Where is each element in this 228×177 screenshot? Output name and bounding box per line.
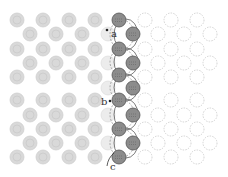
atom-solid [10,42,24,56]
atom-solid [88,70,102,84]
atom-dashed [190,70,204,84]
atom-dashed [203,108,217,122]
atom-solid [36,93,50,107]
atom-dashed [190,42,204,56]
atom-solid [36,70,50,84]
atom-dashed [138,122,152,136]
atom-dashed [164,42,178,56]
atom-dashed [164,93,178,107]
atom-dashed [203,136,217,150]
atom-solid [10,93,24,107]
atom-dashed [138,42,152,56]
marker-a-dot [106,29,109,32]
atom-chain [126,81,140,95]
atom-solid [49,108,63,122]
right-lattice-atoms-dashed [138,13,217,164]
atom-solid [88,13,102,27]
atom-dashed [164,13,178,27]
atom-dashed [203,27,217,41]
atom-dashed [151,136,165,150]
atom-dashed [190,122,204,136]
atom-solid [62,70,76,84]
atom-solid [88,93,102,107]
atom-solid [10,150,24,164]
atom-solid [62,93,76,107]
atom-dashed [164,122,178,136]
atom-dashed [138,93,152,107]
atom-solid [23,27,37,41]
atom-solid [49,56,63,70]
label-b: b [101,96,107,107]
atom-dashed [151,27,165,41]
atom-chain [126,136,140,150]
marker-b-dot [109,100,112,103]
atom-dashed [138,13,152,27]
lattice-diagram: a b c [0,0,228,177]
atom-chain [112,93,126,107]
atom-dashed [177,136,191,150]
atom-dashed [190,93,204,107]
label-c: c [110,161,116,172]
atom-solid [49,27,63,41]
atom-dashed [177,56,191,70]
atom-solid [36,13,50,27]
atom-solid [62,150,76,164]
atom-solid [75,27,89,41]
atom-faint [101,136,115,150]
atom-faint [101,108,115,122]
atom-chain [126,56,140,70]
atom-chain [126,108,140,122]
atom-faint [101,56,115,70]
atom-chain [112,122,126,136]
atom-dashed [151,56,165,70]
atom-solid [23,136,37,150]
atom-dashed [190,150,204,164]
atom-solid [36,150,50,164]
atom-solid [88,150,102,164]
atom-solid [88,42,102,56]
atom-dashed [164,70,178,84]
label-a: a [111,28,117,39]
atom-solid [23,56,37,70]
atom-dashed [177,108,191,122]
atom-faint [101,81,115,95]
atom-solid [75,108,89,122]
atom-dashed [203,56,217,70]
atom-dashed [177,27,191,41]
atom-solid [10,70,24,84]
atom-dashed [190,13,204,27]
atom-solid [36,122,50,136]
atom-solid [10,122,24,136]
atom-solid [88,122,102,136]
atom-chain [126,27,140,41]
atom-dashed [138,150,152,164]
atom-dashed [164,150,178,164]
atom-solid [75,56,89,70]
atom-solid [62,122,76,136]
atom-solid [62,42,76,56]
left-lattice-atoms [10,13,102,164]
atom-solid [75,136,89,150]
atom-solid [49,136,63,150]
atom-chain [112,42,126,56]
atom-solid [62,13,76,27]
atom-solid [23,108,37,122]
atom-solid [10,13,24,27]
atom-dashed [138,70,152,84]
atom-chain [112,68,126,82]
atom-solid [36,42,50,56]
atom-dashed [151,108,165,122]
atom-chain [112,13,126,27]
